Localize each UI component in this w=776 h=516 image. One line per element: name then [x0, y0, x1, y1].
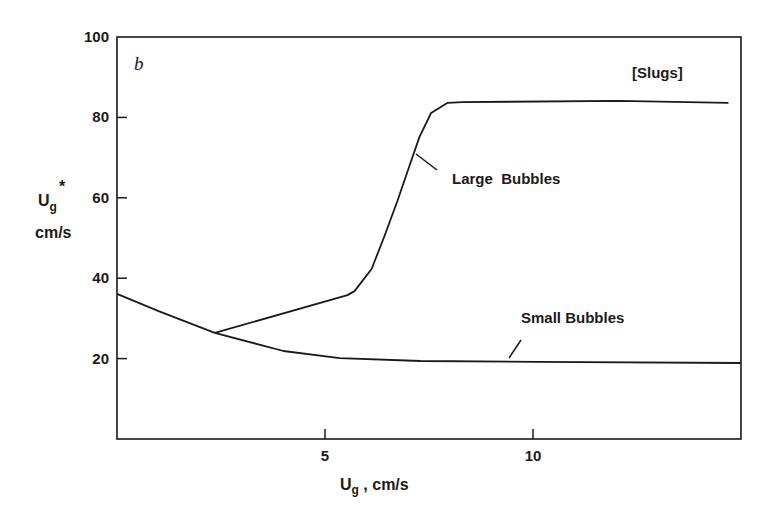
panel-label: b [134, 53, 144, 74]
large-bubbles-leader-line [416, 154, 437, 170]
small-bubbles-annotation: Small Bubbles [521, 309, 624, 326]
y-tick-label: 80 [92, 108, 109, 125]
x-axis-ticks: 510 [321, 429, 542, 464]
y-axis-ticks: 20406080100 [84, 28, 127, 367]
chart: 20406080100 510 b [Slugs] Large Bubbles … [0, 0, 776, 516]
y-axis-title: Ug * cm/s [35, 178, 72, 241]
small-bubbles-leader-line [509, 340, 521, 358]
small-bubbles-curve [117, 294, 741, 363]
y-tick-label: 40 [92, 269, 109, 286]
y-tick-label: 60 [92, 189, 109, 206]
x-tick-label: 5 [321, 447, 329, 464]
large-bubbles-curve [215, 101, 729, 333]
plot-frame [117, 37, 741, 439]
x-axis-title: Ug , cm/s [340, 476, 409, 497]
x-tick-label: 10 [525, 447, 542, 464]
y-tick-label: 100 [84, 28, 109, 45]
svg-text:Ug: Ug [38, 192, 57, 214]
svg-text:cm/s: cm/s [35, 224, 72, 241]
y-tick-label: 20 [92, 350, 109, 367]
large-bubbles-annotation: Large Bubbles [452, 170, 560, 187]
svg-text:*: * [59, 178, 66, 195]
slugs-annotation: [Slugs] [632, 64, 683, 81]
